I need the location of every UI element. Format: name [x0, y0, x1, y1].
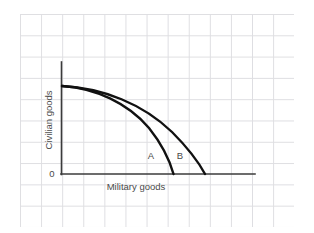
curve-a-label: A	[148, 150, 155, 161]
curve-b-path	[62, 86, 205, 174]
y-axis-title: Civilian goods	[43, 90, 54, 149]
chart-figure: 0 Civilian goods Military goods A B	[0, 0, 314, 233]
origin-tick-label: 0	[49, 168, 54, 179]
curve-a-path	[62, 86, 174, 174]
ppf-chart-plot: 0 Civilian goods Military goods A B	[0, 0, 314, 233]
x-axis-title: Military goods	[107, 181, 166, 192]
curve-b-label: B	[177, 150, 183, 161]
